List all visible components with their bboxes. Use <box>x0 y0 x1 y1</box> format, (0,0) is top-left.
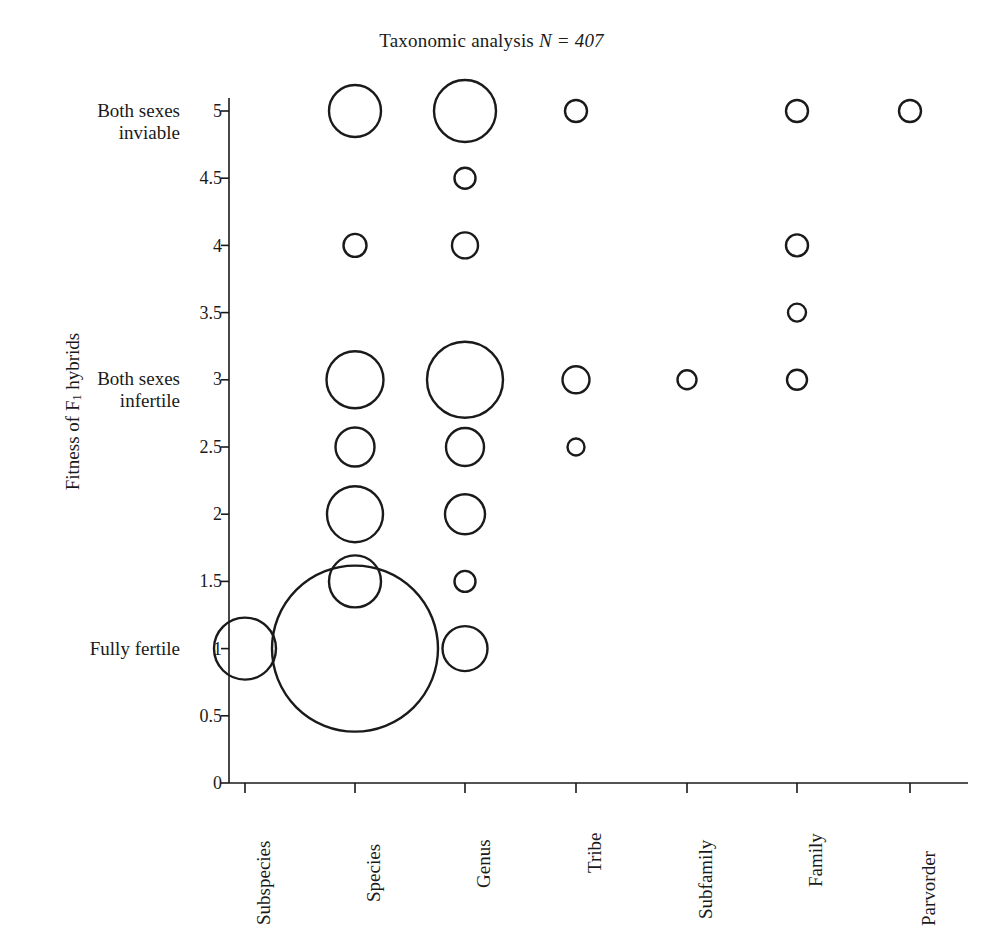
bubble-marker <box>434 80 496 142</box>
bubble-marker <box>329 85 381 137</box>
bubble-marker <box>344 234 367 257</box>
bubble-marker <box>786 100 808 122</box>
bubble-marker <box>568 439 585 456</box>
bubble-marker <box>329 555 381 607</box>
bubble-marker <box>786 234 808 256</box>
bubble-marker <box>445 494 485 534</box>
figure-container: Taxonomic analysis N = 407 Fitness of F1… <box>0 0 983 940</box>
bubble-marker <box>452 232 478 258</box>
bubble-marker <box>565 100 587 122</box>
bubble-layer <box>214 80 921 732</box>
bubble-marker <box>563 366 590 393</box>
bubble-marker <box>443 626 488 671</box>
bubble-marker <box>455 168 476 189</box>
bubble-marker <box>446 428 484 466</box>
bubble-marker <box>336 428 375 467</box>
bubble-marker <box>788 304 806 322</box>
axes-layer <box>221 98 968 793</box>
bubble-marker <box>899 100 921 122</box>
bubble-marker <box>787 370 807 390</box>
tick-layer <box>221 111 910 793</box>
plot-area <box>0 0 983 940</box>
bubble-marker <box>327 486 383 542</box>
bubble-marker <box>455 571 476 592</box>
bubble-marker <box>327 351 384 408</box>
bubble-marker <box>272 566 438 732</box>
bubble-marker <box>427 342 503 418</box>
bubble-marker <box>678 370 697 389</box>
